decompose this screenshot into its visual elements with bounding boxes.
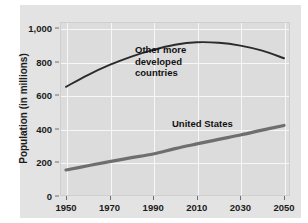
y-tick-mark-1000 bbox=[55, 28, 59, 29]
x-tick-mark-1950 bbox=[66, 196, 67, 200]
gridline-2050 bbox=[285, 23, 286, 195]
gridline-200 bbox=[61, 163, 289, 164]
gridline-1970 bbox=[111, 23, 112, 195]
gridline-2030 bbox=[241, 23, 242, 195]
gridline-2010 bbox=[198, 23, 199, 195]
x-tick-label-1990: 1990 bbox=[133, 202, 173, 213]
x-tick-label-2050: 2050 bbox=[264, 202, 304, 213]
chart-figure: Population (in millions) 1,000 800 600 4… bbox=[0, 0, 308, 223]
gridline-1950 bbox=[67, 23, 68, 195]
y-tick-label-200: 200 bbox=[6, 157, 52, 168]
x-tick-label-1970: 1970 bbox=[90, 202, 130, 213]
gridline-600 bbox=[61, 96, 289, 97]
x-tick-mark-2050 bbox=[284, 196, 285, 200]
y-tick-mark-800 bbox=[55, 61, 59, 62]
y-tick-label-0: 0 bbox=[6, 191, 52, 202]
x-tick-mark-2030 bbox=[240, 196, 241, 200]
x-tick-mark-2010 bbox=[197, 196, 198, 200]
x-tick-label-1950: 1950 bbox=[46, 202, 86, 213]
y-tick-label-1000: 1,000 bbox=[6, 23, 52, 34]
y-tick-label-600: 600 bbox=[6, 90, 52, 101]
y-tick-mark-400 bbox=[55, 128, 59, 129]
gridline-1000 bbox=[61, 29, 289, 30]
x-tick-label-2030: 2030 bbox=[220, 202, 260, 213]
y-tick-mark-200 bbox=[55, 162, 59, 163]
x-tick-mark-1970 bbox=[110, 196, 111, 200]
gridline-400 bbox=[61, 130, 289, 131]
x-tick-mark-1990 bbox=[153, 196, 154, 200]
y-axis-title: Population (in millions) bbox=[18, 24, 29, 194]
series-label-united-states: United States bbox=[172, 118, 233, 130]
y-tick-mark-600 bbox=[55, 95, 59, 96]
y-tick-label-800: 800 bbox=[6, 56, 52, 67]
y-tick-label-400: 400 bbox=[6, 123, 52, 134]
x-tick-label-2010: 2010 bbox=[177, 202, 217, 213]
series-label-other-more-developed-countries: Other more developed countries bbox=[135, 44, 186, 79]
y-tick-mark-0 bbox=[55, 196, 59, 197]
